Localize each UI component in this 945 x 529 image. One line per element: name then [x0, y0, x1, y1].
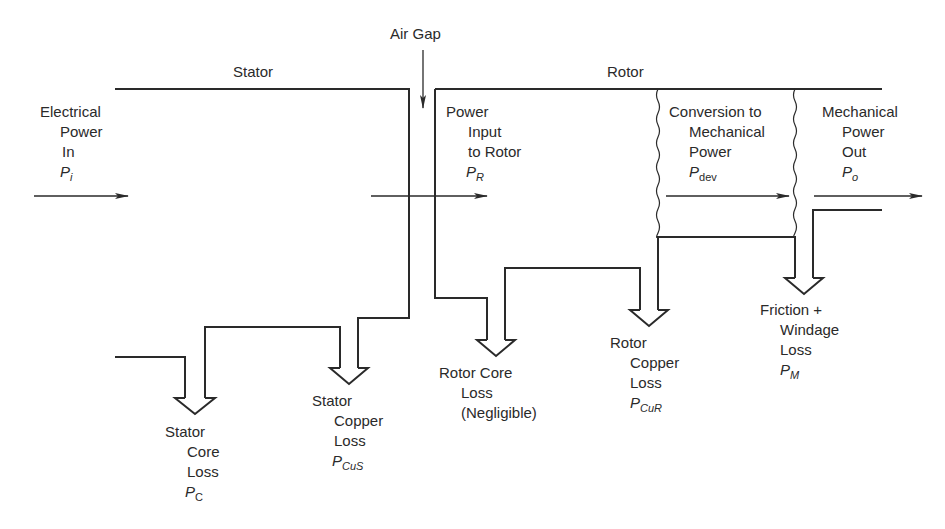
stator-label: Stator — [233, 62, 273, 82]
power-flow-diagram — [0, 0, 945, 529]
conversion-boundary-left — [657, 89, 660, 238]
rotor-copper-loss-label: Rotor Copper Loss PCuR — [610, 333, 679, 418]
stator-core-loss-label: Stator Core Loss PC — [165, 422, 220, 507]
mechanical-power-out-label: Mechanical Power Out Po — [822, 102, 898, 187]
symbol-pm: PM — [760, 360, 839, 385]
electrical-power-in-label: Electrical Power In Pi — [40, 102, 103, 187]
air-gap-label: Air Gap — [390, 24, 441, 44]
symbol-pc: PC — [165, 482, 220, 507]
rotor-core-loss-label: Rotor Core Loss (Negligible) — [439, 363, 537, 423]
conversion-label: Conversion to Mechanical Power Pdev — [669, 102, 765, 187]
symbol-pcus: PCuS — [312, 451, 383, 476]
stator-copper-loss-label: Stator Copper Loss PCuS — [312, 391, 383, 476]
symbol-pr: PR — [446, 162, 521, 187]
rotor-core-loss-arrow — [505, 268, 640, 340]
symbol-pcur: PCuR — [610, 393, 679, 418]
symbol-pi: Pi — [40, 162, 103, 187]
symbol-pdev: Pdev — [669, 162, 765, 187]
power-input-to-rotor-label: Power Input to Rotor PR — [446, 102, 521, 187]
friction-windage-loss-arrow — [813, 210, 882, 278]
conversion-boundary-right — [794, 89, 797, 238]
stator-copper-loss-arrow — [205, 327, 340, 398]
symbol-po: Po — [822, 162, 898, 187]
friction-windage-loss-label: Friction + Windage Loss PM — [760, 300, 839, 385]
rotor-label: Rotor — [607, 62, 644, 82]
stator-core-loss-arrow — [115, 357, 185, 398]
